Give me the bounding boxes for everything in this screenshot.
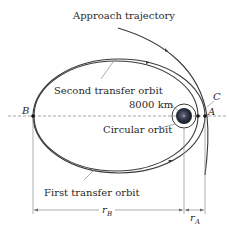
point-inner xyxy=(196,114,200,118)
label-rA-sub: A xyxy=(194,218,200,226)
label-altitude: 8000 km xyxy=(129,99,174,110)
label-approach: Approach trajectory xyxy=(72,10,175,21)
label-circular: Circular orbit xyxy=(103,124,172,135)
leader-second xyxy=(101,62,113,79)
leader-first xyxy=(84,169,95,180)
orbit-diagram: Approach trajectory Second transfer orbi… xyxy=(0,0,229,226)
point-B xyxy=(31,114,35,118)
second-orbit-arrow-icon xyxy=(146,61,150,64)
label-rB-sub: B xyxy=(106,210,112,218)
label-point-B: B xyxy=(21,105,29,116)
first-orbit-arrow-icon xyxy=(169,160,174,163)
label-point-A: A xyxy=(207,106,215,117)
label-first-transfer: First transfer orbit xyxy=(44,187,140,198)
label-second-transfer: Second transfer orbit xyxy=(54,85,163,96)
point-A xyxy=(203,114,207,118)
label-point-C: C xyxy=(213,91,221,102)
